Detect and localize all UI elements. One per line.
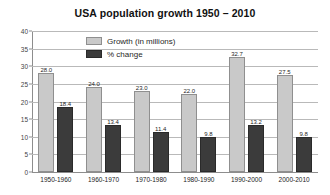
bar-percent-change: 9.8 [200, 137, 216, 172]
bar-value-label: 24.0 [88, 81, 100, 87]
bar-group: 28.018.4 [38, 31, 73, 172]
y-axis-tick-label: 40 [21, 28, 28, 35]
chart-figure: USA population growth 1950 – 2010 051015… [0, 0, 330, 195]
y-axis-tick-mark [29, 83, 32, 84]
gridline [32, 84, 318, 85]
bar-growth: 28.0 [38, 73, 54, 172]
bar-value-label: 23.0 [136, 85, 148, 91]
y-axis-tick-mark [29, 48, 32, 49]
legend-label: Growth (in millions) [107, 37, 175, 46]
bar-growth: 27.5 [277, 75, 293, 172]
bar-value-label: 13.4 [107, 119, 119, 125]
bar-percent-change: 11.4 [153, 132, 169, 172]
bar-value-label: 27.5 [279, 69, 291, 75]
bar-percent-change: 13.2 [248, 125, 264, 172]
x-axis-tick-label: 1970-1980 [136, 176, 167, 183]
x-axis-tick-label: 1960-1970 [88, 176, 119, 183]
bar-value-label: 9.8 [299, 131, 307, 137]
gridline [32, 119, 318, 120]
y-axis-tick-label: 30 [21, 63, 28, 70]
gridline [32, 154, 318, 155]
gridline [32, 137, 318, 138]
bar-growth: 23.0 [134, 91, 150, 172]
bar-percent-change: 13.4 [105, 125, 121, 172]
chart-legend: Growth (in millions)% change [86, 35, 175, 61]
x-axis-tick-label: 2000-2010 [279, 176, 310, 183]
y-axis-tick-mark [29, 101, 32, 102]
legend-swatch-growth [86, 37, 102, 45]
y-axis-tick-label: 15 [21, 116, 28, 123]
bar-value-label: 9.8 [204, 131, 212, 137]
bar-percent-change: 18.4 [57, 107, 73, 172]
x-axis-tick-label: 1980-1990 [183, 176, 214, 183]
y-axis-tick-mark [29, 136, 32, 137]
bar-group: 27.59.8 [277, 31, 312, 172]
legend-label: % change [107, 50, 143, 59]
y-axis-tick-mark [29, 31, 32, 32]
y-axis-tick-mark [29, 154, 32, 155]
y-axis-tick-label: 20 [21, 98, 28, 105]
chart-title: USA population growth 1950 – 2010 [0, 7, 330, 19]
bar-growth: 32.7 [229, 57, 245, 172]
bar-percent-change: 9.8 [296, 137, 312, 172]
y-axis-tick-label: 35 [21, 45, 28, 52]
gridline [32, 66, 318, 67]
gridline [32, 31, 318, 32]
legend-swatch-percent-change [86, 50, 102, 58]
x-axis-tick-label: 1950-1960 [40, 176, 71, 183]
bar-growth: 22.0 [181, 94, 197, 172]
bar-value-label: 22.0 [183, 88, 195, 94]
y-axis-tick-mark [29, 119, 32, 120]
y-axis-tick-mark [29, 66, 32, 67]
bar-value-label: 13.2 [250, 119, 262, 125]
bar-group: 22.09.8 [181, 31, 216, 172]
bar-value-label: 11.4 [155, 126, 166, 132]
bar-growth: 24.0 [86, 87, 102, 172]
bar-value-label: 18.4 [59, 101, 71, 107]
y-axis-tick-label: 0 [24, 169, 28, 176]
legend-item: % change [86, 48, 175, 60]
bar-value-label: 28.0 [40, 67, 52, 73]
y-axis-tick-label: 25 [21, 80, 28, 87]
y-axis-tick-label: 10 [21, 133, 28, 140]
y-axis-tick-mark [29, 172, 32, 173]
legend-item: Growth (in millions) [86, 35, 175, 47]
y-axis-tick-label: 5 [24, 151, 28, 158]
gridline [32, 172, 318, 173]
x-axis-tick-label: 1990-2000 [231, 176, 262, 183]
bar-value-label: 32.7 [231, 51, 243, 57]
bar-group: 32.713.2 [229, 31, 264, 172]
gridline [32, 102, 318, 103]
